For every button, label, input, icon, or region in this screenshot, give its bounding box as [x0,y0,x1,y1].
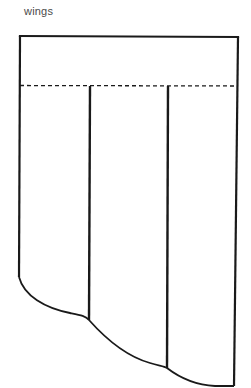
bottom-hem-curve [19,277,234,386]
wings-diagram [0,0,251,388]
panel-divider-1 [89,86,90,320]
top-edge [20,36,238,37]
right-edge [234,37,238,386]
fold-line-dashed [20,86,238,87]
panel-divider-2 [167,86,168,368]
left-edge [19,36,20,277]
